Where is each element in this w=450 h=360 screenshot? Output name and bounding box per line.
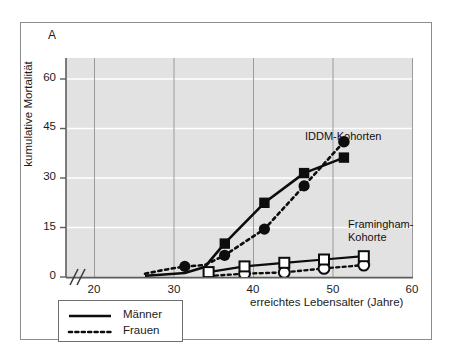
legend-swatch-solid xyxy=(67,308,113,320)
x-tick-label-30: 30 xyxy=(154,283,194,295)
plot-background xyxy=(66,58,413,277)
legend-label-frauen: Frauen xyxy=(123,324,159,336)
legend-swatch-dotted xyxy=(67,324,113,336)
y-tick-marks xyxy=(60,79,66,277)
chart-legend: Männer Frauen xyxy=(58,300,183,342)
annotation-framingham-line1: Framingham- xyxy=(348,218,413,231)
y-tick-label-45: 45 xyxy=(28,120,56,132)
y-tick-label-15: 15 xyxy=(28,220,56,232)
y-tick-label-30: 30 xyxy=(28,170,56,182)
x-tick-label-50: 50 xyxy=(313,283,353,295)
y-tick-label-0: 0 xyxy=(28,269,56,281)
x-tick-label-40: 40 xyxy=(233,283,273,295)
annotation-iddm: IDDM-Kohorten xyxy=(305,130,381,143)
legend-item-maenner: Männer xyxy=(67,306,162,322)
x-tick-label-60: 60 xyxy=(392,283,432,295)
y-tick-label-60: 60 xyxy=(28,71,56,83)
x-axis-title: erreichtes Lebensalter (Jahre) xyxy=(250,296,403,308)
panel-label: A xyxy=(48,28,56,42)
legend-label-maenner: Männer xyxy=(123,308,162,320)
x-tick-label-20: 20 xyxy=(74,283,114,295)
annotation-framingham-line2: Kohorte xyxy=(348,231,387,244)
legend-item-frauen: Frauen xyxy=(67,322,159,338)
figure-panel-a: A kumulative Mortalität 60 45 30 15 0 20… xyxy=(0,0,450,360)
